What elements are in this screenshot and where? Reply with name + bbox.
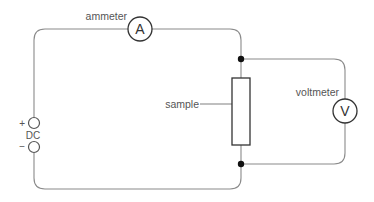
ammeter-symbol: A	[135, 21, 145, 37]
junction-bottom-dot	[238, 161, 244, 167]
wire-sample-bottom	[34, 145, 241, 189]
dc-positive-terminal	[29, 118, 40, 129]
sample-label: sample	[165, 98, 199, 110]
ammeter-label: ammeter	[86, 10, 128, 22]
wire-voltmeter-bottom	[241, 123, 345, 164]
ammeter: A ammeter	[86, 10, 152, 41]
circuit-diagram: A ammeter V voltmeter sample + DC −	[0, 0, 374, 202]
junction-top-dot	[238, 56, 244, 62]
dc-source: + DC −	[19, 118, 40, 153]
dc-negative-sign: −	[19, 141, 25, 152]
wire-top-right	[152, 29, 241, 78]
voltmeter: V voltmeter	[296, 86, 357, 123]
dc-label: DC	[26, 130, 40, 141]
wire-left-top	[34, 29, 128, 117]
sample-resistor	[232, 78, 250, 145]
dc-positive-sign: +	[19, 118, 25, 129]
dc-negative-terminal	[29, 142, 40, 153]
voltmeter-label: voltmeter	[296, 86, 340, 98]
voltmeter-symbol: V	[340, 103, 350, 119]
